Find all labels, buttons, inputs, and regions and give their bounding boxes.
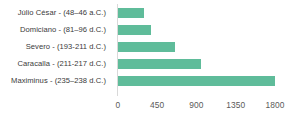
- plot-area: Júlio César - (48–46 a.C.) Domiciano - (…: [0, 0, 296, 95]
- category-label: Domiciano - (81–96 d.C.): [0, 25, 106, 35]
- x-tick-label: 1800: [265, 99, 284, 111]
- category-label: Caracalla - (211-217 d.C.): [0, 59, 106, 69]
- category-axis-labels: Júlio César - (48–46 a.C.) Domiciano - (…: [0, 8, 110, 95]
- bar: [118, 59, 201, 69]
- bar: [118, 8, 144, 18]
- x-tick-label: 450: [150, 99, 164, 111]
- bar-chart: Júlio César - (48–46 a.C.) Domiciano - (…: [0, 0, 296, 121]
- bar-row: [118, 42, 175, 52]
- value-axis-ticks: 0 450 900 1350 1800: [0, 99, 296, 121]
- bar-row: [118, 25, 151, 35]
- category-label: Júlio César - (48–46 a.C.): [0, 8, 106, 18]
- x-tick-label: 1350: [226, 99, 245, 111]
- x-tick-label: 0: [116, 99, 121, 111]
- bar: [118, 42, 175, 52]
- bar: [118, 25, 151, 35]
- bar-row: [118, 76, 275, 86]
- x-tick-label: 900: [189, 99, 203, 111]
- category-label: Maximinus - (235–238 d.C.): [0, 76, 106, 86]
- bar: [118, 76, 275, 86]
- bar-row: [118, 59, 201, 69]
- bars-container: [118, 8, 296, 95]
- bar-row: [118, 8, 144, 18]
- category-label: Severo - (193-211 d.C.): [0, 42, 106, 52]
